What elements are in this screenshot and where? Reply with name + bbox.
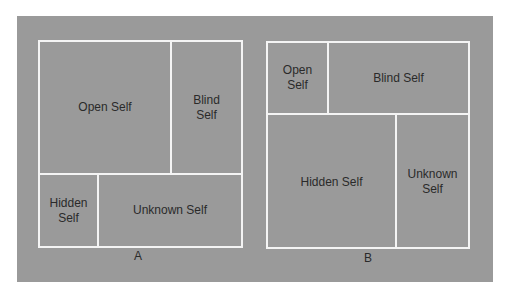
quadrant-hidden-self-b: Hidden Self bbox=[268, 115, 395, 247]
quadrant-unknown-self-a: Unknown Self bbox=[99, 175, 241, 246]
quadrant-open-self-a: Open Self bbox=[40, 42, 170, 173]
quadrant-blind-self-a: Blind Self bbox=[172, 42, 241, 173]
quadrant-open-self-b: Open Self bbox=[268, 43, 327, 113]
quadrant-unknown-self-b: Unknown Self bbox=[397, 115, 468, 247]
quadrant-hidden-self-a: Hidden Self bbox=[40, 175, 97, 246]
caption-a: A bbox=[128, 249, 148, 263]
quadrant-blind-self-b: Blind Self bbox=[329, 43, 468, 113]
caption-b: B bbox=[358, 251, 378, 265]
